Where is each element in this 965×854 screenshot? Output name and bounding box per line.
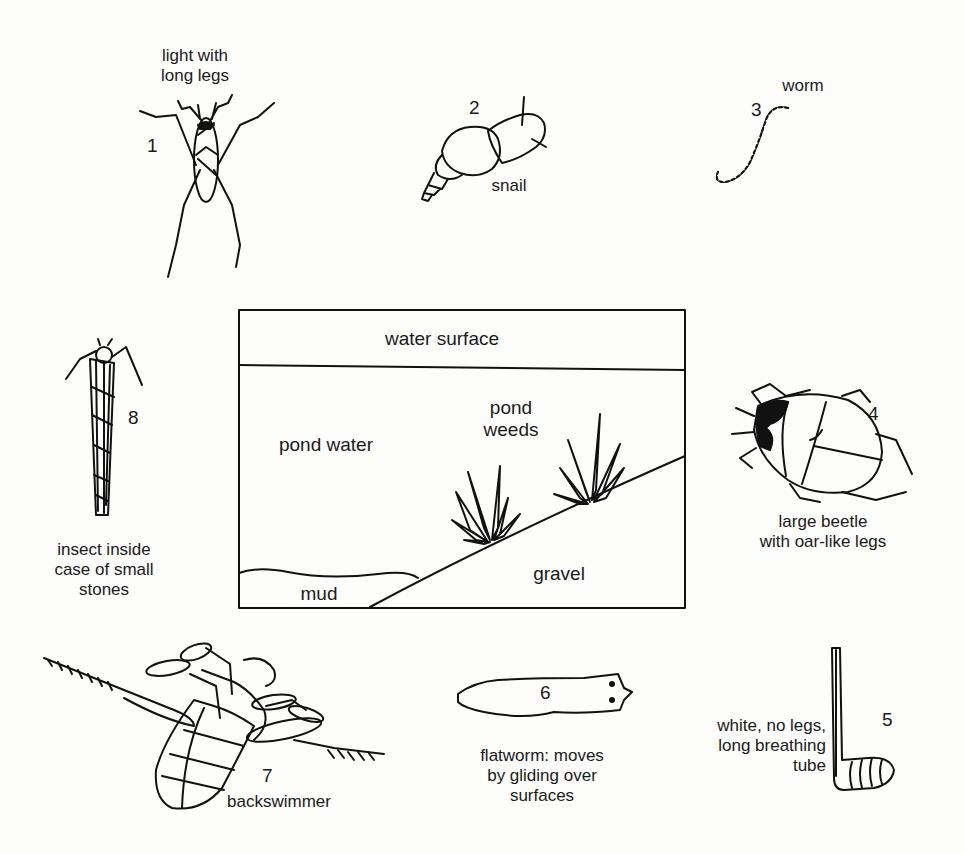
- organism-7-label: backswimmer: [224, 792, 334, 812]
- backswimmer-icon: [44, 630, 394, 815]
- organism-8-label: insect inside case of small stones: [42, 540, 166, 600]
- organism-8-number: 8: [128, 408, 139, 428]
- water-surface-label: water surface: [372, 328, 512, 350]
- pond-weed-right: [554, 414, 624, 504]
- organism-6-number: 6: [540, 683, 551, 703]
- organism-3-label: worm: [778, 76, 828, 96]
- organism-7-number: 7: [262, 766, 273, 786]
- organism-1-label: light with long legs: [140, 46, 250, 86]
- snail-icon: [420, 93, 560, 208]
- organism-4-label: large beetle with oar-like legs: [742, 512, 904, 552]
- mud-label: mud: [294, 583, 344, 605]
- organism-6-label: flatworm: moves by gliding over surfaces: [460, 746, 624, 806]
- pond-water-label: pond water: [266, 434, 386, 456]
- organism-5-label: white, no legs, long breathing tube: [706, 716, 826, 776]
- water-beetle-icon: [730, 380, 920, 510]
- mud-edge: [239, 569, 418, 578]
- pond-frame: [239, 310, 685, 608]
- pond-weed-left: [452, 466, 520, 544]
- gravel-label: gravel: [524, 563, 594, 585]
- pond-weeds-label: pond weeds: [476, 397, 546, 441]
- worm-icon: [712, 100, 802, 195]
- pond-cross-section: [238, 308, 688, 610]
- organism-5-number: 5: [882, 710, 893, 730]
- organism-4-number: 4: [868, 404, 879, 424]
- pond-skater-icon: [140, 95, 280, 280]
- water-surface-line: [239, 365, 685, 370]
